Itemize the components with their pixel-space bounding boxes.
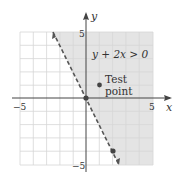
test-point [97,83,102,88]
inequality-label: y + 2x > 0 [91,48,148,60]
test-point-label-2: point [105,85,133,97]
y-tick-pos5: 5 [79,29,85,39]
y-tick-neg5: −5 [72,161,86,171]
line-point [110,148,115,153]
y-axis-arrow-icon [83,12,89,20]
y-axis-label: y [90,10,98,23]
test-point-label-1: Test [105,73,128,85]
x-tick-pos5: 5 [149,102,155,112]
x-tick-neg5: −5 [13,102,27,112]
origin-point [83,95,88,100]
graph-inequality: y x −5 5 5 −5 y + 2x > 0 Test point [0,0,180,180]
x-axis-label: x [166,101,173,114]
